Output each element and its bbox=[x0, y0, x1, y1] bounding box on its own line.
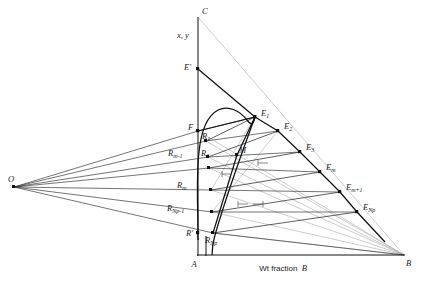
marker-M bbox=[235, 153, 238, 156]
line-B-RNp1 bbox=[212, 212, 404, 255]
vertex-label-C: C bbox=[202, 6, 208, 16]
stage-label-ENp: ENp bbox=[362, 202, 375, 213]
ternary-diagram-svg: C A B O x, y Wt fraction B E' F M R' E1 … bbox=[0, 0, 426, 281]
stage-label-Em: Em bbox=[325, 162, 336, 173]
principal-lines bbox=[198, 69, 385, 242]
line-Eprime-E1 bbox=[198, 69, 255, 117]
stage-label-RNp: RNp bbox=[204, 235, 217, 246]
marker-E1 bbox=[253, 115, 256, 118]
vertex-label-O: O bbox=[8, 174, 14, 184]
marker-Eprime bbox=[196, 67, 199, 70]
marker-RNp bbox=[211, 231, 214, 234]
line-B-Rm bbox=[211, 190, 404, 255]
oline-Rm1-Em-ext bbox=[209, 168, 320, 172]
horizontal-axis-label-prefix: Wt fraction bbox=[259, 264, 299, 273]
stage-label-R1: R1 bbox=[201, 131, 210, 142]
stage-label-Rm: Rm bbox=[176, 180, 187, 191]
horizontal-axis-label-component: B bbox=[302, 263, 307, 273]
vertex-label-B: B bbox=[406, 258, 411, 268]
marker-ENp bbox=[355, 210, 358, 213]
stage-label-RNp-minus-1: RNp-1 bbox=[166, 203, 184, 214]
marker-F bbox=[196, 129, 199, 132]
horizontal-axis-label: Wt fraction B bbox=[259, 263, 307, 273]
stage-label-R2: R2 bbox=[200, 148, 209, 159]
marker-Em1 bbox=[338, 190, 341, 193]
oline-O-F bbox=[14, 131, 198, 187]
stage-label-Em-plus-1: Em+1 bbox=[345, 182, 363, 193]
stage-label-E1: E1 bbox=[260, 108, 269, 119]
marker-Rprime bbox=[196, 231, 199, 234]
marker-RNp1 bbox=[210, 210, 213, 213]
construction-lines-light bbox=[198, 17, 404, 255]
figure-canvas: C A B O x, y Wt fraction B E' F M R' E1 … bbox=[0, 0, 426, 281]
marker-Em bbox=[318, 170, 321, 173]
marker-O bbox=[12, 185, 15, 188]
point-label-F: F bbox=[187, 122, 194, 132]
vertical-axis-label: x, y bbox=[176, 30, 189, 40]
line-C-B bbox=[198, 17, 404, 255]
oline-Rm-Em1-ext bbox=[211, 190, 340, 192]
marker-E3 bbox=[298, 150, 301, 153]
stage-label-E2: E2 bbox=[283, 121, 292, 132]
stage-label-Rm-minus-1: Rm-1 bbox=[167, 148, 183, 159]
oline-RNp-B-ext bbox=[213, 233, 404, 255]
tick-group-upper bbox=[258, 160, 268, 166]
tieline-Em1-RNp1 bbox=[212, 192, 340, 212]
point-label-M: M bbox=[238, 145, 247, 155]
marker-E2 bbox=[276, 129, 279, 132]
vertex-label-A: A bbox=[190, 259, 197, 269]
marker-Rm1 bbox=[207, 166, 210, 169]
point-label-E-prime: E' bbox=[183, 62, 191, 72]
stage-label-E3: E3 bbox=[305, 142, 314, 153]
point-label-R-prime: R' bbox=[185, 228, 193, 238]
marker-Rm bbox=[209, 188, 212, 191]
